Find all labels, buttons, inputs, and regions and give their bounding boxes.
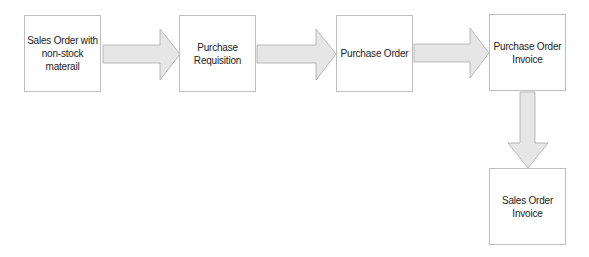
arrow-right-icon xyxy=(103,29,180,80)
node-sales-order-non-stock: Sales Order with non-stock materail xyxy=(24,15,101,92)
node-label: Purchase Order xyxy=(341,47,409,60)
node-sales-order-invoice: Sales Order Invoice xyxy=(489,168,566,245)
node-label: Purchase Requisition xyxy=(194,41,241,67)
node-label: Sales Order with non-stock materail xyxy=(25,34,100,73)
node-purchase-requisition: Purchase Requisition xyxy=(179,15,256,92)
node-purchase-order: Purchase Order xyxy=(336,15,413,92)
node-label: Purchase Order Invoice xyxy=(494,40,562,66)
arrow-down-icon xyxy=(508,92,548,168)
node-purchase-order-invoice: Purchase Order Invoice xyxy=(489,14,566,91)
arrow-right-icon xyxy=(257,29,336,80)
arrow-right-icon xyxy=(414,28,489,78)
flowchart-canvas: Sales Order with non-stock materail Purc… xyxy=(0,0,589,257)
node-label: Sales Order Invoice xyxy=(502,194,553,220)
